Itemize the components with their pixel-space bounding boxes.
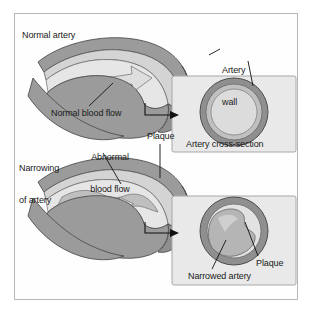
- label-plaque-top: Plaque: [147, 131, 174, 142]
- label-abnormal-flow-line2: blood flow: [79, 184, 141, 195]
- label-artery-wall-line1: Artery: [222, 65, 245, 76]
- label-normal-blood-flow: Normal blood flow: [51, 108, 121, 119]
- normal-artery-illustration: [28, 38, 190, 140]
- figure-root: Normal artery Artery wall Normal blood f…: [0, 0, 313, 324]
- leader-artery-wall-left: [209, 49, 220, 55]
- label-narrowed-artery: Narrowed artery: [188, 271, 251, 282]
- label-abnormal-blood-flow: Abnormal blood flow: [79, 131, 141, 215]
- label-artery-wall: Artery wall: [222, 44, 245, 128]
- label-narrowing-line1: Narrowing: [19, 163, 59, 174]
- label-plaque-bottom: Plaque: [256, 258, 283, 269]
- label-artery-wall-line2: wall: [222, 97, 245, 108]
- label-abnormal-flow-line1: Abnormal: [79, 152, 141, 163]
- label-artery-cross-section: Artery cross-section: [186, 139, 264, 150]
- label-normal-artery: Normal artery: [22, 30, 75, 41]
- label-narrowing-of-artery: Narrowing of artery: [19, 142, 59, 226]
- label-narrowing-line2: of artery: [19, 195, 59, 206]
